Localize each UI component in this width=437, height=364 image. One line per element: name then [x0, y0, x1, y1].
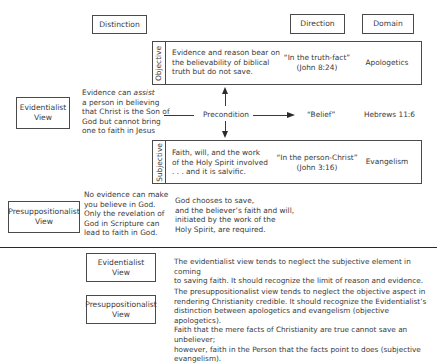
evidentialist-view-label: Evidentialist View: [20, 103, 67, 123]
distinction-header-label: Distinction: [99, 20, 140, 30]
critique-presuppositionalist-box: Presuppositionalist View: [86, 295, 156, 324]
critique-evidentialist-text: The evidentialist view tends to neglect …: [174, 257, 437, 286]
distinction-header: Distinction: [92, 15, 147, 34]
subjective-domain: Evangelism: [357, 157, 417, 167]
objective-direction: “In the truth-fact” (John 8:24): [282, 53, 352, 72]
domain-header: Domain: [362, 14, 414, 34]
arrow-up-shaft: [225, 93, 226, 106]
arrow-down-icon: [222, 131, 228, 138]
presuppositionalist-view-box: Presuppositionalist View: [8, 201, 80, 233]
evidentialist-desc-pre: Evidence can: [82, 88, 134, 97]
evidentialist-desc-emphasis: assist: [134, 88, 155, 97]
subjective-text: Faith, will, and the work of the Holy Sp…: [172, 148, 268, 177]
objective-label-cell: Objective: [153, 42, 166, 84]
subjective-direction: “In the person-Christ” (John 3:16): [276, 153, 358, 172]
evidentialist-desc-post: a person in believing that Christ is the…: [82, 98, 170, 136]
god-chooses-text: God chooses to save, and the believer’s …: [175, 196, 294, 234]
arrow-up-icon: [222, 87, 228, 94]
subjective-label-cell: Subjective: [153, 141, 166, 183]
critique-evidentialist-box: Evidentialist View: [86, 253, 156, 282]
critique-presuppositionalist-text: The presuppositionalist view tends to ne…: [174, 287, 437, 364]
arrow-right-icon: [287, 112, 295, 118]
domain-header-label: Domain: [373, 19, 402, 29]
hebrews-reference: Hebrews 11:6: [364, 110, 415, 120]
precondition-label: Precondition: [203, 110, 249, 120]
presuppositionalist-view-label: Presuppositionalist View: [8, 207, 80, 227]
direction-header: Direction: [290, 14, 345, 34]
arrow-right-shaft: [253, 115, 289, 116]
objective-text: Evidence and reason bear on the believab…: [172, 48, 280, 77]
connector-line-left: [164, 115, 194, 116]
section-divider: [0, 247, 437, 248]
critique-presuppositionalist-label: Presuppositionalist View: [85, 300, 157, 320]
objective-label: Objective: [155, 45, 164, 80]
evidentialist-description: Evidence can assist a person in believin…: [82, 88, 170, 136]
subjective-label: Subjective: [155, 143, 164, 182]
direction-header-label: Direction: [300, 19, 334, 29]
critique-evidentialist-label: Evidentialist View: [98, 258, 145, 278]
objective-domain: Apologetics: [357, 58, 417, 68]
belief-label: “Belief”: [307, 110, 335, 120]
evidentialist-view-box: Evidentialist View: [16, 97, 70, 129]
presuppositionalist-description: No evidence can make you believe in God.…: [84, 190, 168, 238]
